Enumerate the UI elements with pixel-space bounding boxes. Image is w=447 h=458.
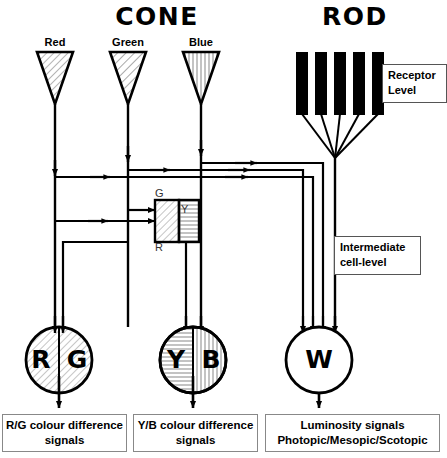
receptor-level-callout: Receptor Level	[382, 64, 447, 103]
output-box-yb: Y/B colour difference signals	[133, 414, 258, 452]
opponent-box	[155, 200, 199, 242]
cone-green	[110, 52, 146, 104]
cone-red	[37, 52, 73, 104]
cone-section-title: CONE	[82, 2, 232, 31]
cone-label-red: Red	[30, 36, 80, 48]
output-yb-line1: Y/B colour difference	[134, 418, 257, 433]
intermediate-cell-level-callout: Intermediate cell-level	[334, 236, 421, 275]
intermediate-line1: Intermediate	[340, 240, 416, 255]
output-box-rg: R/G colour difference signals	[2, 414, 127, 452]
receptor-level-line1: Receptor	[388, 68, 442, 83]
rod-section-title: ROD	[280, 2, 430, 31]
blue-to-w	[201, 163, 323, 331]
intermediate-line2: cell-level	[340, 255, 416, 270]
cone-label-green: Green	[103, 36, 153, 48]
green-to-rg-cell	[63, 242, 128, 327]
output-yb-line2: signals	[134, 433, 257, 448]
receptor-level-line2: Level	[388, 83, 442, 98]
output-lum-line1: Luminosity signals	[266, 418, 439, 433]
cell-w	[286, 327, 352, 393]
opponent-box-label-g: G	[155, 187, 164, 199]
output-rg-line1: R/G colour difference	[3, 418, 126, 433]
opponent-box-label-y: Y	[181, 203, 188, 215]
output-rg-line2: signals	[3, 433, 126, 448]
cone-blue	[183, 52, 219, 104]
cone-label-blue: Blue	[176, 36, 226, 48]
rod-group	[296, 52, 384, 158]
opponent-box-label-r: R	[155, 241, 163, 253]
output-box-luminosity: Luminosity signals Photopic/Mesopic/Scot…	[265, 414, 440, 452]
output-lum-line2: Photopic/Mesopic/Scotopic	[266, 433, 439, 448]
